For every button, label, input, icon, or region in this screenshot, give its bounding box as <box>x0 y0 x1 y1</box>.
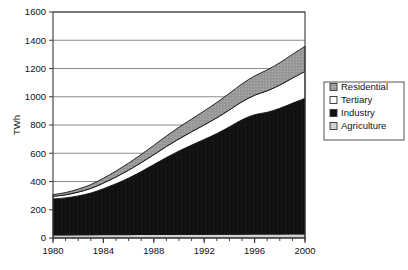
y-tick-label: 1400 <box>25 35 46 46</box>
x-tick-label: 1980 <box>42 245 63 256</box>
chart-canvas: 02004006008001000120014001600 1980198419… <box>0 0 408 270</box>
legend-label-agriculture: Agriculture <box>341 120 386 131</box>
legend-swatch-agriculture <box>330 123 337 130</box>
y-tick-label: 1000 <box>25 91 46 102</box>
y-tick-label: 0 <box>41 232 46 243</box>
stacked-area-chart: 02004006008001000120014001600 1980198419… <box>0 0 408 270</box>
x-tick-label: 1984 <box>93 245 114 256</box>
legend-label-industry: Industry <box>341 107 375 118</box>
x-tick-label: 1996 <box>244 245 265 256</box>
y-axis-title: TWh <box>11 115 22 135</box>
y-tick-label: 600 <box>30 148 46 159</box>
legend: ResidentialTertiaryIndustryAgriculture <box>324 81 404 140</box>
legend-swatch-tertiary <box>330 97 337 104</box>
legend-label-residential: Residential <box>341 81 388 92</box>
x-tick-label: 1992 <box>194 245 215 256</box>
y-tick-label: 200 <box>30 204 46 215</box>
legend-label-tertiary: Tertiary <box>341 94 372 105</box>
legend-swatch-industry <box>330 110 337 117</box>
y-tick-label: 1600 <box>25 6 46 17</box>
y-tick-label: 400 <box>30 176 46 187</box>
legend-swatch-residential <box>330 84 337 91</box>
y-tick-label: 800 <box>30 119 46 130</box>
x-tick-label: 2000 <box>294 245 315 256</box>
y-tick-label: 1200 <box>25 63 46 74</box>
x-tick-label: 1988 <box>143 245 164 256</box>
